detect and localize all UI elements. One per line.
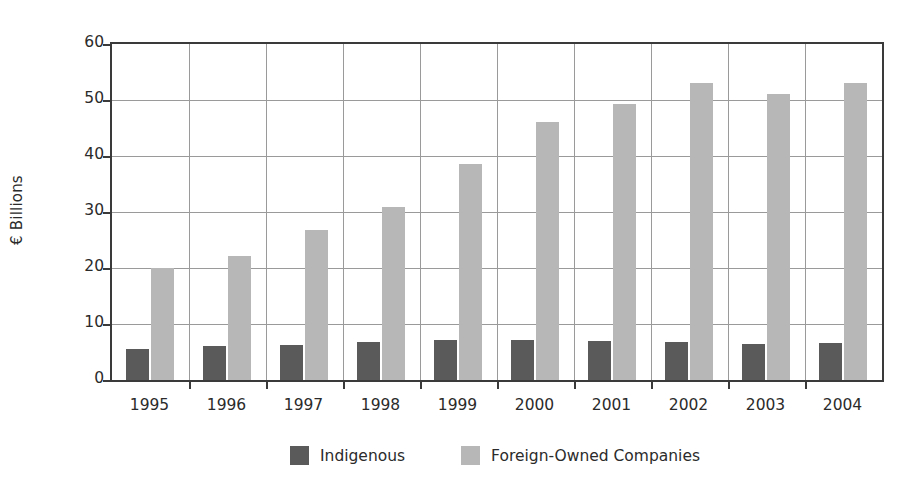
x-axis-tick-label: 1999 [418, 396, 495, 426]
legend-swatch-icon [461, 446, 480, 465]
bar-group [574, 44, 651, 380]
x-tick-mark [728, 380, 730, 389]
bar-indigenous-1995 [126, 349, 149, 380]
x-tick-mark [497, 380, 499, 389]
x-tick-mark [189, 380, 191, 389]
bar-foreign-1999 [459, 164, 482, 380]
x-tick-mark [574, 380, 576, 389]
bar-indigenous-1998 [357, 342, 380, 380]
bar-indigenous-1999 [434, 340, 457, 380]
bar-foreign-2000 [536, 122, 559, 380]
bar-indigenous-2004 [819, 343, 842, 380]
bar-foreign-2002 [690, 83, 713, 380]
y-axis-tick-label: 40 [58, 145, 104, 163]
bar-foreign-1997 [305, 230, 328, 380]
bar-groups [112, 44, 882, 380]
bar-group [112, 44, 189, 380]
bar-group [343, 44, 420, 380]
y-tick-mark [103, 212, 112, 214]
y-axis-tick-label: 30 [58, 201, 104, 219]
bar-group [805, 44, 882, 380]
legend-item-indigenous[interactable]: Indigenous [290, 446, 405, 465]
bar-foreign-1998 [382, 207, 405, 380]
bar-indigenous-1997 [280, 345, 303, 380]
bar-foreign-1996 [228, 256, 251, 380]
chart-legend: IndigenousForeign-Owned Companies [110, 446, 880, 465]
y-tick-mark [103, 156, 112, 158]
x-axis-tick-label: 2003 [726, 396, 803, 426]
bar-indigenous-2003 [742, 344, 765, 380]
bar-foreign-2003 [767, 94, 790, 380]
legend-label: Indigenous [320, 447, 405, 465]
y-tick-mark [103, 44, 112, 46]
x-axis-tick-label: 1995 [110, 396, 187, 426]
x-axis-tick-labels: 1995199619971998199920002001200220032004 [110, 396, 880, 426]
legend-item-foreign[interactable]: Foreign-Owned Companies [461, 446, 700, 465]
bar-group [651, 44, 728, 380]
x-tick-mark [805, 380, 807, 389]
legend-label: Foreign-Owned Companies [491, 447, 700, 465]
plot-area [110, 42, 884, 382]
bar-indigenous-1996 [203, 346, 226, 380]
y-axis-title: € Billions [8, 150, 26, 270]
x-tick-mark [420, 380, 422, 389]
x-axis-tick-label: 1996 [187, 396, 264, 426]
y-axis-tick-label: 10 [58, 313, 104, 331]
x-axis-tick-label: 1998 [341, 396, 418, 426]
x-tick-mark [343, 380, 345, 389]
y-axis-tick-label: 60 [58, 33, 104, 51]
legend-swatch-icon [290, 446, 309, 465]
bar-group [189, 44, 266, 380]
bar-group [497, 44, 574, 380]
x-axis-tick-label: 1997 [264, 396, 341, 426]
bar-indigenous-2000 [511, 340, 534, 380]
x-axis-tick-label: 2002 [649, 396, 726, 426]
y-axis-tick-label: 20 [58, 257, 104, 275]
bar-foreign-1995 [151, 268, 174, 380]
x-tick-mark [266, 380, 268, 389]
y-tick-mark [103, 324, 112, 326]
y-tick-mark [103, 380, 112, 382]
y-tick-mark [103, 100, 112, 102]
bar-indigenous-2001 [588, 341, 611, 380]
y-axis-tick-label: 0 [58, 369, 104, 387]
x-axis-tick-label: 2000 [495, 396, 572, 426]
x-axis-tick-label: 2004 [803, 396, 880, 426]
y-axis-tick-label: 50 [58, 89, 104, 107]
y-tick-mark [103, 268, 112, 270]
bar-foreign-2001 [613, 104, 636, 380]
x-axis-tick-label: 2001 [572, 396, 649, 426]
bar-group [728, 44, 805, 380]
bar-group [420, 44, 497, 380]
bar-indigenous-2002 [665, 342, 688, 380]
y-axis-tick-labels: 0102030405060 [52, 0, 104, 495]
bar-group [266, 44, 343, 380]
x-tick-mark [651, 380, 653, 389]
bar-foreign-2004 [844, 83, 867, 380]
bar-chart-figure: € Billions 0102030405060 199519961997199… [0, 0, 909, 495]
